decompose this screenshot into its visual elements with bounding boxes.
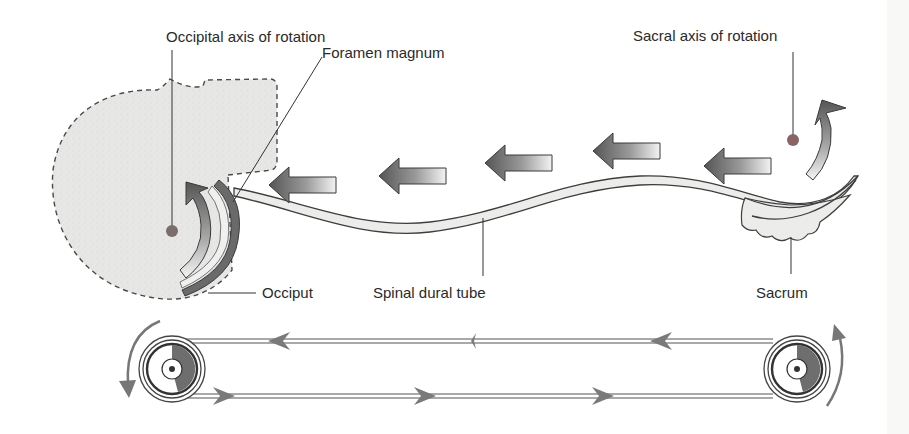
label-foramen-magnum: Foramen magnum <box>322 44 445 61</box>
pulley-belt-model <box>119 321 846 406</box>
belt-arrow-right-icon <box>414 387 436 405</box>
flow-arrow-5-icon <box>704 148 771 184</box>
right-pulley-wheel <box>764 336 830 402</box>
left-pulley-wheel <box>139 336 205 402</box>
belt-arrow-left-icon <box>268 332 290 350</box>
belt-arrow-right-icon <box>213 387 235 405</box>
top-belt <box>176 339 773 343</box>
label-spinal-dural-tube: Spinal dural tube <box>373 284 486 301</box>
flow-arrow-3-icon <box>485 145 552 181</box>
bottom-belt <box>176 394 773 398</box>
label-sacral-axis: Sacral axis of rotation <box>633 27 777 44</box>
label-sacrum: Sacrum <box>756 284 808 301</box>
belt-arrow-right-icon <box>592 387 614 405</box>
sacrum-bone <box>741 176 858 241</box>
diagram-canvas: Occipital axis of rotation Foramen magnu… <box>0 0 909 434</box>
flow-arrow-1-icon <box>269 167 336 203</box>
sacral-axis-dot <box>787 134 799 146</box>
belt-arrow-left-icon <box>471 333 476 349</box>
flow-arrows <box>269 133 771 203</box>
occipital-axis-dot <box>166 225 178 237</box>
flow-arrow-4-icon <box>593 133 660 169</box>
flow-arrow-2-icon <box>379 158 446 194</box>
skull-outline <box>52 79 277 299</box>
belt-arrow-left-icon <box>650 332 672 350</box>
label-occiput: Occiput <box>262 284 314 301</box>
label-occipital-axis: Occipital axis of rotation <box>166 28 325 45</box>
sacrum-rotation-arrow-icon <box>806 100 846 180</box>
